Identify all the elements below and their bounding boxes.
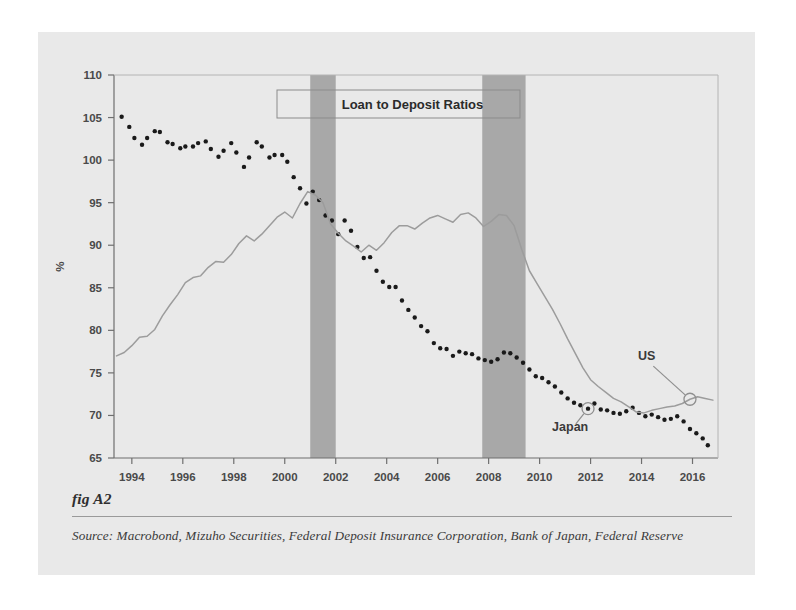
data-point — [451, 354, 455, 358]
data-point — [342, 218, 346, 222]
data-point — [406, 308, 410, 312]
data-point — [489, 360, 493, 364]
data-point — [393, 285, 397, 289]
x-tick-label: 2014 — [629, 471, 655, 483]
data-point — [546, 380, 550, 384]
data-point — [586, 406, 590, 410]
data-point — [400, 298, 404, 302]
data-point — [565, 396, 569, 400]
data-point — [669, 417, 673, 421]
x-tick-label: 1996 — [170, 471, 196, 483]
data-point — [611, 411, 615, 415]
data-point — [119, 115, 123, 119]
data-point — [368, 255, 372, 259]
data-point — [285, 160, 289, 164]
data-point — [572, 400, 576, 404]
data-point — [280, 153, 284, 157]
data-point — [387, 285, 391, 289]
x-tick-label: 2012 — [578, 471, 604, 483]
data-point — [540, 376, 544, 380]
data-point — [255, 140, 259, 144]
data-point — [140, 143, 144, 147]
figure-label: fig A2 — [72, 490, 112, 508]
data-point — [662, 418, 666, 422]
data-point — [701, 436, 705, 440]
data-point — [476, 356, 480, 360]
data-point — [681, 419, 685, 423]
data-point — [419, 324, 423, 328]
annotation-us: US — [638, 349, 696, 405]
chart-title: Loan to Deposit Ratios — [342, 97, 484, 112]
data-point — [464, 351, 468, 355]
data-point — [272, 153, 276, 157]
data-point — [559, 390, 563, 394]
data-point — [483, 358, 487, 362]
data-point — [132, 136, 136, 140]
series-markers-japan — [119, 115, 710, 448]
y-tick-label: 70 — [89, 409, 102, 421]
x-tick-label: 1994 — [119, 471, 145, 483]
data-point — [688, 427, 692, 431]
data-point — [413, 315, 417, 319]
x-tick-label: 1998 — [221, 471, 247, 483]
data-point — [706, 443, 710, 447]
data-point — [650, 412, 654, 416]
data-point — [234, 150, 238, 154]
data-point — [656, 415, 660, 419]
x-tick-label: 2000 — [272, 471, 298, 483]
data-point — [521, 360, 525, 364]
y-tick-label: 110 — [83, 69, 102, 81]
data-point — [191, 144, 195, 148]
data-point — [508, 351, 512, 355]
y-tick-label: 85 — [89, 282, 102, 294]
y-axis-title: % — [54, 261, 66, 271]
data-point — [247, 155, 251, 159]
recession-band-1 — [310, 75, 335, 458]
data-point — [514, 355, 518, 359]
data-point — [599, 407, 603, 411]
y-tick-label: 95 — [89, 197, 102, 209]
data-point — [444, 347, 448, 351]
x-tick-label: 2010 — [527, 471, 553, 483]
loan-to-deposit-chart: 65707580859095100105110%1994199619982000… — [0, 0, 796, 610]
data-point — [221, 149, 225, 153]
x-tick-label: 2008 — [476, 471, 502, 483]
data-point — [624, 409, 628, 413]
data-point — [553, 384, 557, 388]
data-point — [204, 139, 208, 143]
data-point — [438, 346, 442, 350]
axes — [114, 75, 718, 458]
data-point — [534, 374, 538, 378]
data-point — [457, 349, 461, 353]
data-point — [153, 129, 157, 133]
data-point — [145, 136, 149, 140]
data-point — [127, 125, 131, 129]
x-tick-label: 2004 — [374, 471, 400, 483]
y-tick-label: 105 — [83, 112, 103, 124]
data-point — [432, 341, 436, 345]
chart-area: 65707580859095100105110%1994199619982000… — [0, 0, 796, 610]
y-tick-label: 75 — [89, 367, 102, 379]
data-point — [495, 357, 499, 361]
data-point — [349, 229, 353, 233]
data-point — [374, 269, 378, 273]
caption-divider — [72, 516, 732, 517]
data-point — [216, 155, 220, 159]
y-tick-label: 90 — [89, 239, 102, 251]
y-tick-label: 100 — [83, 154, 102, 166]
recession-band-2 — [482, 75, 525, 458]
data-point — [229, 141, 233, 145]
data-point — [178, 146, 182, 150]
data-point — [381, 280, 385, 284]
data-point — [304, 201, 308, 205]
data-point — [470, 352, 474, 356]
data-point — [267, 155, 271, 159]
x-axis-ticks: 1994199619982000200220042006200820102012… — [119, 458, 705, 483]
x-tick-label: 2002 — [323, 471, 349, 483]
x-tick-label: 2006 — [425, 471, 451, 483]
y-tick-label: 65 — [89, 452, 102, 464]
data-point — [618, 412, 622, 416]
y-tick-label: 80 — [89, 324, 102, 336]
x-tick-label: 2016 — [680, 471, 706, 483]
recession-bands — [310, 75, 525, 458]
